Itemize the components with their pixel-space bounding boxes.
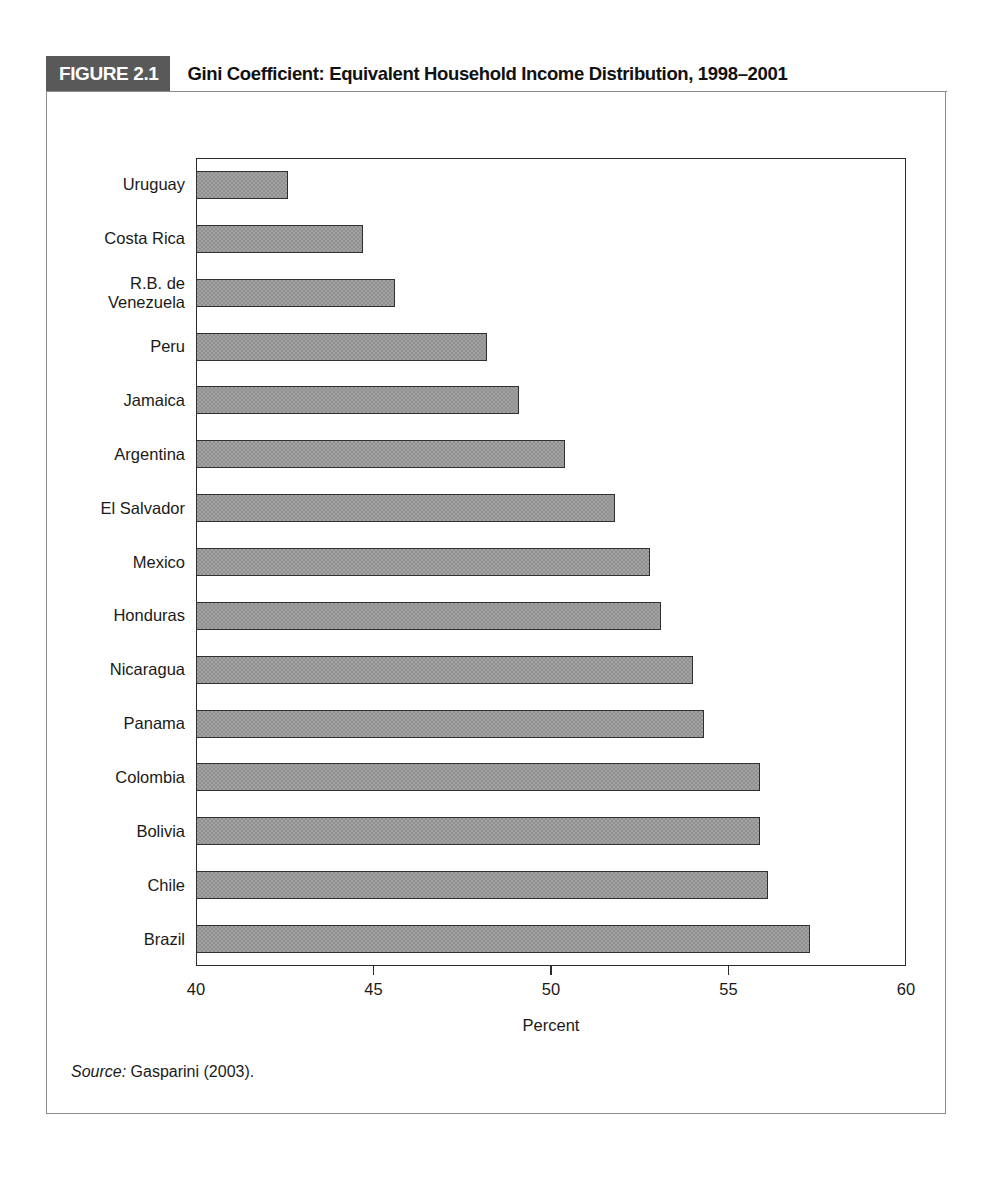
bar-row (196, 602, 906, 630)
y-axis-label: Costa Rica (104, 229, 185, 248)
x-tick-mark (728, 966, 730, 975)
figure-block: FIGURE 2.1 Gini Coefficient: Equivalent … (46, 56, 946, 1114)
y-axis-label: Honduras (113, 606, 185, 625)
y-axis-label: Mexico (133, 553, 185, 572)
figure-header: FIGURE 2.1 Gini Coefficient: Equivalent … (46, 56, 946, 92)
figure-number-badge: FIGURE 2.1 (46, 56, 170, 92)
source-note-label: Source: (71, 1063, 126, 1080)
source-note: Source: Gasparini (2003). (71, 1063, 254, 1081)
bar-row (196, 763, 906, 791)
bar (196, 440, 565, 468)
bar (196, 871, 768, 899)
bar-row (196, 171, 906, 199)
y-axis-label: Brazil (144, 930, 185, 949)
bar-row (196, 925, 906, 953)
y-axis-label: Peru (150, 337, 185, 356)
bar (196, 710, 704, 738)
bar (196, 602, 661, 630)
x-tick-label: 50 (542, 980, 560, 999)
x-tick-label: 60 (897, 980, 915, 999)
x-tick-mark (373, 966, 375, 975)
x-tick-label: 45 (364, 980, 382, 999)
y-axis-label: El Salvador (101, 499, 185, 518)
bar-row (196, 225, 906, 253)
bar (196, 279, 395, 307)
bar (196, 548, 650, 576)
bar (196, 763, 760, 791)
y-axis-label: Panama (124, 714, 185, 733)
bar (196, 386, 519, 414)
bar-row (196, 333, 906, 361)
figure-title: Gini Coefficient: Equivalent Household I… (170, 56, 946, 92)
x-tick-label: 40 (187, 980, 205, 999)
bar-row (196, 871, 906, 899)
y-axis-label: Chile (147, 876, 185, 895)
bar-row (196, 440, 906, 468)
page-top-artifact (520, 6, 960, 16)
bar-row (196, 710, 906, 738)
x-tick-label: 55 (719, 980, 737, 999)
bars-layer (196, 158, 906, 966)
figure-body: UruguayCosta RicaR.B. de VenezuelaPeruJa… (46, 92, 946, 1114)
y-axis-label: R.B. de Venezuela (108, 274, 185, 312)
bar-row (196, 817, 906, 845)
bar (196, 925, 810, 953)
y-axis-label: Argentina (114, 445, 185, 464)
y-axis-category-labels: UruguayCosta RicaR.B. de VenezuelaPeruJa… (47, 158, 185, 966)
bar (196, 333, 487, 361)
bar (196, 494, 615, 522)
x-axis-title: Percent (196, 1016, 906, 1035)
bar (196, 225, 363, 253)
y-axis-label: Jamaica (124, 391, 185, 410)
source-note-text: Gasparini (2003). (126, 1063, 254, 1080)
bar-row (196, 494, 906, 522)
bar (196, 656, 693, 684)
bar-row (196, 279, 906, 307)
y-axis-label: Bolivia (136, 822, 185, 841)
x-axis-ticks: 4045505560 (196, 966, 906, 976)
bar-row (196, 548, 906, 576)
bar-chart: UruguayCosta RicaR.B. de VenezuelaPeruJa… (47, 92, 945, 1113)
bar-row (196, 656, 906, 684)
x-tick-mark (550, 966, 552, 975)
bar (196, 171, 288, 199)
y-axis-label: Uruguay (123, 175, 185, 194)
bar-row (196, 386, 906, 414)
y-axis-label: Nicaragua (110, 660, 185, 679)
bar (196, 817, 760, 845)
y-axis-label: Colombia (115, 768, 185, 787)
